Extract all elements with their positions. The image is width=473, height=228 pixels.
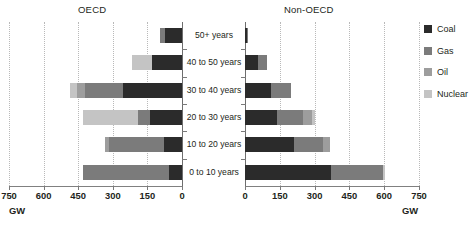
bar-segment-nuclear [83, 110, 138, 125]
legend-item[interactable]: Oil [424, 67, 473, 77]
category-tick [182, 104, 187, 105]
axis-tick-label: 150 [272, 190, 288, 201]
stacked-bar[interactable] [245, 28, 248, 43]
category-tick [182, 159, 187, 160]
bar-row [245, 22, 419, 49]
category-label: 30 to 40 years [183, 85, 245, 95]
bar-segment-nuclear [70, 83, 77, 98]
legend-label: Oil [437, 67, 448, 77]
category-tick [241, 131, 246, 132]
bar-segment-oil [303, 110, 312, 125]
category-tick [182, 77, 187, 78]
panel-title-non-oecd: Non-OECD [284, 4, 334, 15]
bar-row [9, 104, 182, 131]
legend-item[interactable]: Coal [424, 24, 473, 34]
stacked-bar[interactable] [245, 137, 330, 152]
bar-row [245, 159, 419, 186]
legend-label: Nuclear [437, 89, 468, 99]
bar-segment-gas [271, 83, 292, 98]
stacked-bar[interactable] [70, 83, 182, 98]
category-tick [182, 49, 187, 50]
bar-segment-nuclear [312, 110, 314, 125]
legend-swatch-icon [424, 25, 432, 33]
axis-tick-label: 750 [411, 190, 427, 201]
axis-tick-mark [182, 186, 183, 190]
category-tick [241, 159, 246, 160]
stacked-bar[interactable] [245, 110, 315, 125]
bar-row [245, 104, 419, 131]
bar-segment-coal [245, 165, 331, 180]
legend-item[interactable]: Gas [424, 46, 473, 56]
category-tick [241, 49, 246, 50]
axis-unit-non-oecd: GW [402, 205, 418, 216]
bar-segment-gas [247, 28, 248, 43]
bar-row [9, 77, 182, 104]
axis-tick-mark [44, 186, 45, 190]
category-label-column: 50+ years40 to 50 years30 to 40 years20 … [183, 22, 245, 186]
bar-row [245, 131, 419, 158]
category-tick [241, 104, 246, 105]
category-tick [241, 77, 246, 78]
category-label: 0 to 10 years [183, 167, 245, 177]
legend-item[interactable]: Nuclear [424, 89, 473, 99]
bar-row [9, 159, 182, 186]
chart-container: OECD Non-OECD 50+ years40 to 50 years30 … [0, 0, 473, 228]
bar-segment-coal [123, 83, 182, 98]
axis-tick-mark [147, 186, 148, 190]
bar-segment-coal [150, 110, 182, 125]
bar-segment-coal [245, 83, 271, 98]
bar-segment-coal [165, 28, 182, 43]
stacked-bar[interactable] [83, 110, 182, 125]
axis-tick-label: 0 [242, 190, 247, 201]
bar-row [245, 49, 419, 76]
stacked-bar[interactable] [245, 83, 291, 98]
bar-segment-gas [331, 165, 383, 180]
legend: CoalGasOilNuclear [424, 24, 473, 110]
axis-tick-label: 300 [307, 190, 323, 201]
bar-row [9, 22, 182, 49]
stacked-bar[interactable] [132, 55, 182, 70]
bar-segment-gas [138, 110, 150, 125]
x-axis-ticks-non-oecd: 0150300450600750 [0, 190, 473, 204]
legend-swatch-icon [424, 47, 432, 55]
stacked-bar[interactable] [160, 28, 182, 43]
bar-segment-gas [83, 165, 170, 180]
bar-segment-coal [245, 110, 277, 125]
legend-swatch-icon [424, 90, 432, 98]
bar-segment-coal [164, 137, 182, 152]
bar-segment-gas [85, 83, 123, 98]
bar-segment-coal [169, 165, 182, 180]
bar-segment-coal [245, 137, 294, 152]
bar-segment-coal [245, 55, 258, 70]
axis-tick-label: 600 [376, 190, 392, 201]
category-label: 50+ years [183, 30, 245, 40]
category-tick [182, 131, 187, 132]
bar-segment-coal [152, 55, 182, 70]
axis-tick-mark [349, 186, 350, 190]
x-axis-line [245, 186, 419, 187]
legend-swatch-icon [424, 68, 432, 76]
stacked-bar[interactable] [245, 165, 385, 180]
bar-segment-gas [277, 110, 303, 125]
legend-label: Coal [437, 24, 456, 34]
category-label: 20 to 30 years [183, 112, 245, 122]
legend-label: Gas [437, 46, 454, 56]
bar-row [9, 49, 182, 76]
panel-title-oecd: OECD [78, 4, 106, 15]
axis-tick-mark [419, 186, 420, 190]
x-axis-line [9, 186, 182, 187]
bar-segment-nuclear [383, 165, 385, 180]
category-label: 10 to 20 years [183, 139, 245, 149]
axis-tick-mark [384, 186, 385, 190]
plot-area-oecd [9, 22, 182, 186]
bar-segment-gas [294, 137, 323, 152]
bar-row [245, 77, 419, 104]
axis-tick-mark [78, 186, 79, 190]
axis-tick-label: 450 [342, 190, 358, 201]
stacked-bar[interactable] [83, 165, 182, 180]
stacked-bar[interactable] [245, 55, 267, 70]
bar-row [9, 131, 182, 158]
stacked-bar[interactable] [105, 137, 182, 152]
bar-segment-oil [77, 83, 85, 98]
category-label: 40 to 50 years [183, 57, 245, 67]
